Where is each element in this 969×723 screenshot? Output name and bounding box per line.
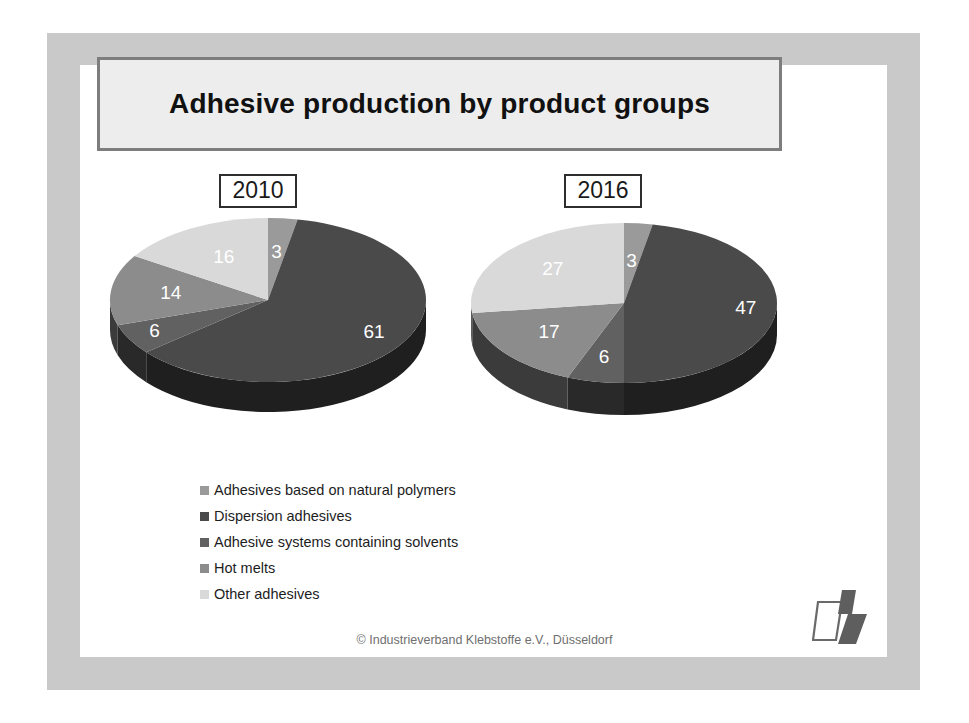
pie-slice-value-label: 47	[735, 297, 756, 318]
legend-swatch-icon	[200, 564, 209, 573]
pie-slice-value-label: 3	[271, 241, 282, 262]
pie-slice-side	[568, 377, 624, 415]
legend-swatch-icon	[200, 486, 209, 495]
pie-slice-value-label: 61	[364, 321, 385, 342]
page-title: Adhesive production by product groups	[169, 88, 710, 120]
legend-item: Other adhesives	[200, 581, 620, 607]
legend-item-label: Other adhesives	[214, 587, 320, 602]
year-label-2010: 2010	[219, 174, 297, 208]
pie-chart-2016: 34761727	[468, 208, 780, 408]
legend-item: Hot melts	[200, 555, 620, 581]
legend-swatch-icon	[200, 538, 209, 547]
legend-swatch-icon	[200, 590, 209, 599]
legend-item: Dispersion adhesives	[200, 503, 620, 529]
pie-chart-2010: 36161416	[108, 208, 428, 408]
pie-slice-value-label: 3	[626, 250, 637, 271]
legend-swatch-icon	[200, 512, 209, 521]
legend-item: Adhesives based on natural polymers	[200, 477, 620, 503]
pie-slice-value-label: 16	[213, 246, 234, 267]
legend-item-label: Dispersion adhesives	[214, 509, 352, 524]
industrieverband-klebstoffe-logo-icon	[812, 588, 872, 646]
pie-slice-value-label: 27	[542, 258, 563, 279]
legend-item-label: Hot melts	[214, 561, 275, 576]
year-label-2016: 2016	[564, 174, 642, 208]
slide-title-box: Adhesive production by product groups	[97, 57, 782, 151]
pie-slice-value-label: 17	[538, 321, 559, 342]
pie-slice-value-label: 6	[149, 320, 160, 341]
pie-slice-value-label: 14	[160, 282, 182, 303]
pie-slice-value-label: 6	[599, 346, 610, 367]
legend-item-label: Adhesives based on natural polymers	[214, 483, 456, 498]
chart-legend: Adhesives based on natural polymersDispe…	[200, 477, 620, 607]
legend-item: Adhesive systems containing solvents	[200, 529, 620, 555]
legend-item-label: Adhesive systems containing solvents	[214, 535, 458, 550]
